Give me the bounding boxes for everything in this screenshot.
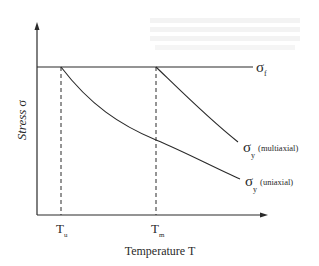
scan-bleed-through [150, 18, 300, 50]
x-axis-title: Temperature T [125, 244, 196, 258]
tick-label-tm: Tm [151, 221, 165, 239]
multiaxial-label: σy(multiaxial) [243, 139, 298, 160]
sigma-f-label: σf [256, 59, 267, 78]
y-axis-title: Stressσ [14, 100, 29, 141]
multiaxial-yield-curve [156, 67, 238, 142]
tick-label-tu: Tu [56, 221, 68, 239]
y-axis-arrow-icon [35, 22, 40, 30]
uniaxial-yield-curve [61, 67, 240, 179]
stress-temperature-diagram: σf σy(multiaxial) σy(uniaxial) Tu Tm Tem… [0, 0, 319, 266]
x-axis-arrow-icon [260, 213, 268, 218]
uniaxial-label: σy(uniaxial) [245, 173, 293, 194]
